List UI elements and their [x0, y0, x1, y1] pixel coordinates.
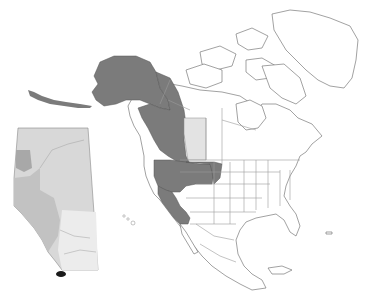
range-aleutians [28, 90, 92, 108]
baffin-island [262, 64, 306, 104]
hawaii [123, 215, 135, 225]
bermuda [326, 232, 332, 234]
inset-location-marker [56, 271, 66, 277]
inset-zone-light [58, 210, 98, 270]
range-alberta [184, 118, 206, 160]
cuba [268, 266, 292, 274]
alberta-inset [14, 128, 98, 277]
arctic-islands [236, 28, 268, 50]
inset-zone-dark [16, 150, 32, 172]
north-america-map [0, 0, 368, 294]
range-map [0, 0, 368, 294]
